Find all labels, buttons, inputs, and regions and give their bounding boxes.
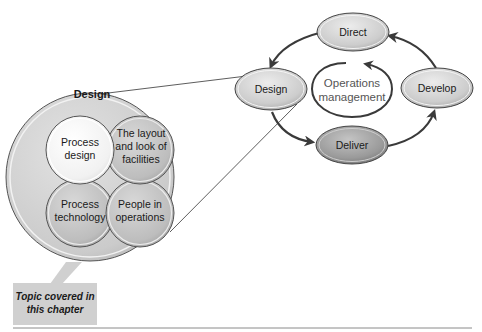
operations-management-loop xyxy=(312,63,392,117)
process-tech-line2: technology xyxy=(55,211,107,223)
node-deliver: Deliver xyxy=(316,126,388,164)
callout-box: Topic covered in this chapter xyxy=(13,283,97,325)
callout-pointer xyxy=(50,262,82,284)
ops-label-line1: Operations xyxy=(324,77,381,89)
layout-line2: and look of xyxy=(115,140,166,152)
ops-label-line2: management xyxy=(318,91,386,103)
node-direct-label: Direct xyxy=(339,26,367,38)
node-deliver-label: Deliver xyxy=(336,139,369,151)
arrow-direct-to-design xyxy=(271,32,323,66)
arrow-design-to-deliver xyxy=(272,112,312,142)
arrow-develop-to-direct xyxy=(390,36,436,68)
design-detail-title: Design xyxy=(74,88,111,100)
layout-line3: facilities xyxy=(122,153,159,165)
node-develop: Develop xyxy=(401,68,473,108)
people-line2: operations xyxy=(115,211,164,223)
node-direct: Direct xyxy=(317,13,389,51)
process-design-line1: Process xyxy=(61,136,99,148)
node-design: Design xyxy=(235,68,307,110)
callout-line2: this chapter xyxy=(27,304,85,315)
operations-diagram: Design Process design The layout and loo… xyxy=(0,0,482,332)
process-design-line2: design xyxy=(65,149,96,161)
arrow-deliver-to-develop xyxy=(388,112,434,146)
process-tech-line1: Process xyxy=(61,198,99,210)
node-design-label: Design xyxy=(255,83,288,95)
people-line1: People in xyxy=(118,198,162,210)
node-develop-label: Develop xyxy=(418,82,457,94)
callout-line1: Topic covered in xyxy=(15,291,94,302)
layout-line1: The layout xyxy=(116,127,165,139)
